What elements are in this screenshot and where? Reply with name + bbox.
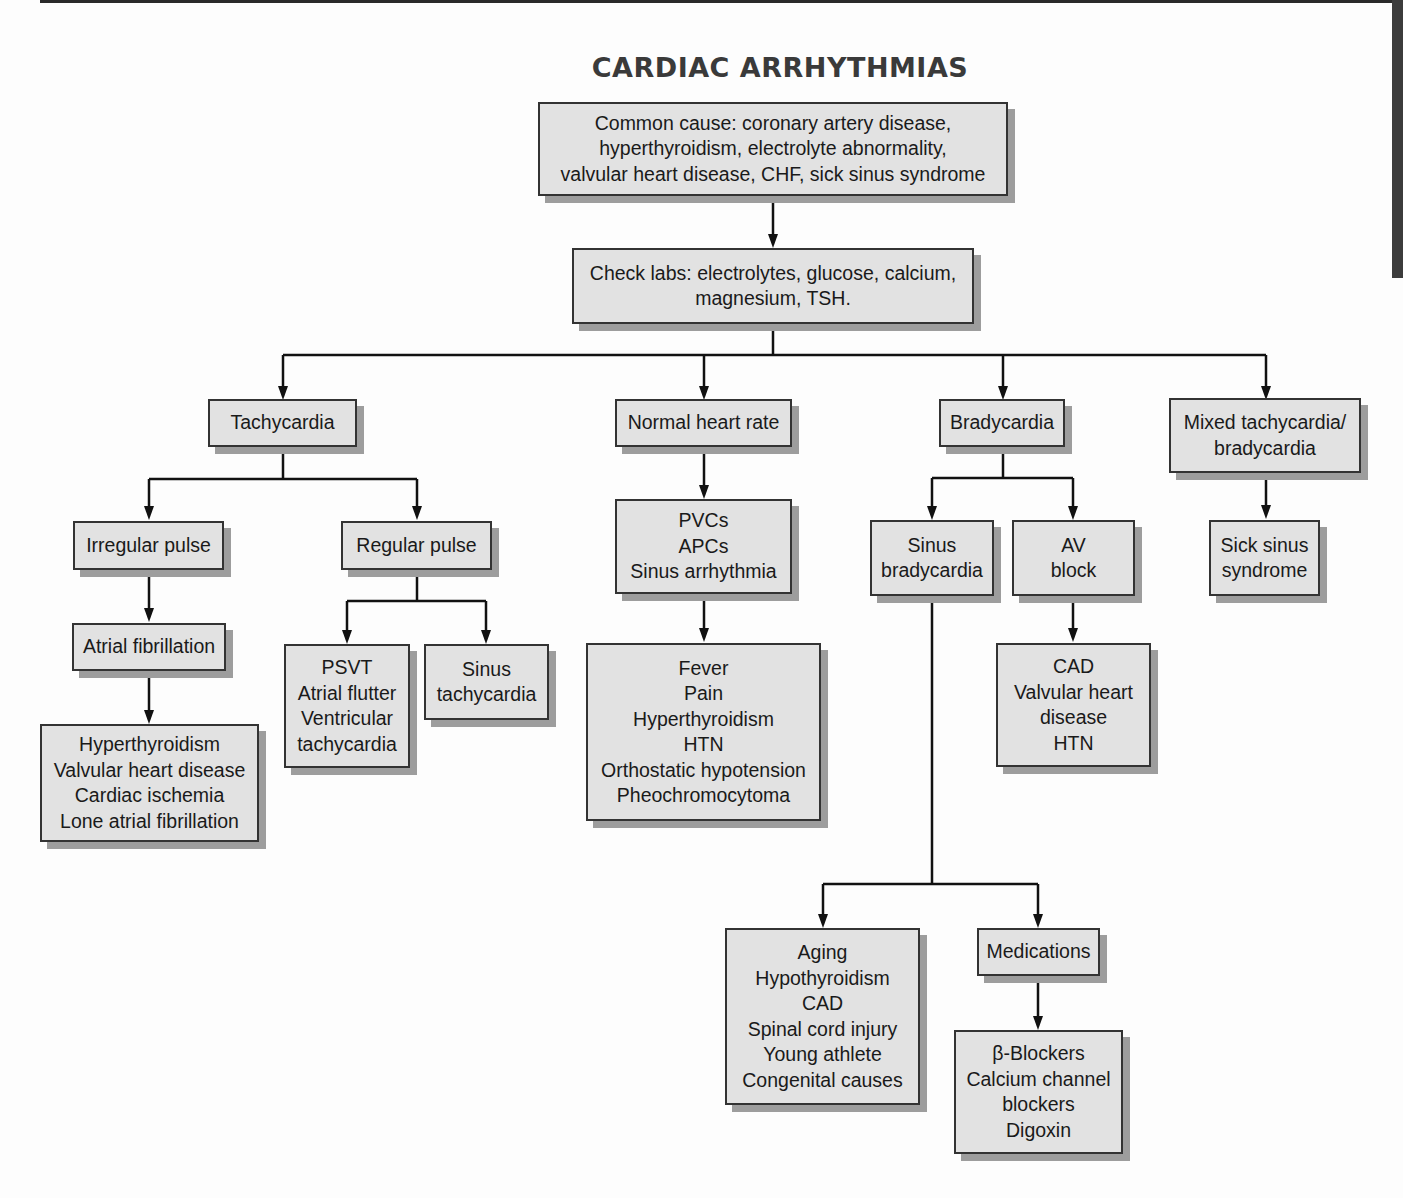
- node-tachycardia: Tachycardia: [208, 399, 357, 447]
- node-text: Sick sinus: [1221, 533, 1309, 559]
- node-text: valvular heart disease, CHF, sick sinus …: [561, 162, 986, 188]
- node-text: CAD: [1053, 654, 1094, 680]
- node-psvt-group: PSVTAtrial flutterVentriculartachycardia: [284, 644, 410, 768]
- node-text: Tachycardia: [230, 410, 334, 436]
- node-av-block: AVblock: [1012, 520, 1135, 596]
- node-text: Check labs: electrolytes, glucose, calci…: [590, 261, 956, 287]
- node-text: Fever: [679, 656, 729, 682]
- node-medication-list: β-BlockersCalcium channelblockersDigoxin: [954, 1030, 1123, 1154]
- node-text: Congenital causes: [742, 1068, 902, 1094]
- node-text: bradycardia: [1214, 436, 1316, 462]
- node-text: PSVT: [322, 655, 373, 681]
- node-text: Irregular pulse: [86, 533, 211, 559]
- node-text: β-Blockers: [992, 1041, 1084, 1067]
- node-sick-sinus: Sick sinussyndrome: [1209, 520, 1320, 596]
- node-text: magnesium, TSH.: [695, 286, 851, 312]
- node-text: Normal heart rate: [628, 410, 780, 436]
- node-text: block: [1051, 558, 1097, 584]
- node-text: Orthostatic hypotension: [601, 758, 806, 784]
- node-text: Medications: [986, 939, 1090, 965]
- node-text: Aging: [798, 940, 848, 966]
- node-text: Sinus arrhythmia: [630, 559, 776, 585]
- node-text: Spinal cord injury: [748, 1017, 898, 1043]
- node-mixed: Mixed tachycardia/bradycardia: [1169, 398, 1361, 473]
- node-text: Atrial flutter: [298, 681, 397, 707]
- side-tab-marker: [1392, 0, 1403, 278]
- node-text: Bradycardia: [950, 410, 1054, 436]
- node-text: Young athlete: [763, 1042, 882, 1068]
- node-sinus-bradycardia: Sinusbradycardia: [870, 520, 994, 596]
- node-normal-types: PVCsAPCsSinus arrhythmia: [615, 499, 792, 594]
- node-av-block-causes: CADValvular heartdiseaseHTN: [996, 643, 1151, 767]
- node-sinus-tachycardia: Sinustachycardia: [424, 644, 549, 720]
- node-text: Digoxin: [1006, 1118, 1071, 1144]
- node-text: Hyperthyroidism: [633, 707, 774, 733]
- node-text: Regular pulse: [356, 533, 476, 559]
- node-text: CAD: [802, 991, 843, 1017]
- node-text: Atrial fibrillation: [83, 634, 215, 660]
- node-text: Mixed tachycardia/: [1184, 410, 1347, 436]
- node-text: Sinus: [908, 533, 957, 559]
- node-irregular-pulse: Irregular pulse: [73, 521, 224, 570]
- node-text: HTN: [683, 732, 723, 758]
- node-text: APCs: [679, 534, 729, 560]
- node-text: blockers: [1002, 1092, 1075, 1118]
- node-text: Valvular heart: [1014, 680, 1133, 706]
- node-text: Hypothyroidism: [755, 966, 889, 992]
- node-text: Pain: [684, 681, 723, 707]
- node-text: Ventricular: [301, 706, 393, 732]
- node-text: tachycardia: [437, 682, 537, 708]
- node-text: AV: [1061, 533, 1086, 559]
- node-text: Pheochromocytoma: [617, 783, 790, 809]
- node-text: Sinus: [462, 657, 511, 683]
- node-text: Common cause: coronary artery disease,: [595, 111, 952, 137]
- diagram-title: CARDIAC ARRHYTHMIAS: [520, 52, 1040, 83]
- node-bradycardia: Bradycardia: [939, 399, 1065, 447]
- node-text: bradycardia: [881, 558, 983, 584]
- top-rule: [40, 0, 1392, 3]
- node-check-labs: Check labs: electrolytes, glucose, calci…: [572, 248, 974, 324]
- node-text: PVCs: [679, 508, 729, 534]
- node-text: Hyperthyroidism: [79, 732, 220, 758]
- node-normal-heart-rate: Normal heart rate: [615, 399, 792, 447]
- node-afib-causes: HyperthyroidismValvular heart diseaseCar…: [40, 724, 259, 842]
- node-medications: Medications: [977, 928, 1100, 976]
- node-text: Cardiac ischemia: [75, 783, 225, 809]
- node-common-cause: Common cause: coronary artery disease,hy…: [538, 102, 1008, 196]
- node-text: Lone atrial fibrillation: [60, 809, 239, 835]
- node-text: syndrome: [1222, 558, 1308, 584]
- node-text: Valvular heart disease: [54, 758, 246, 784]
- node-text: tachycardia: [297, 732, 397, 758]
- node-text: disease: [1040, 705, 1107, 731]
- node-sinus-brady-causes: AgingHypothyroidismCADSpinal cord injury…: [725, 928, 920, 1105]
- node-atrial-fibrillation: Atrial fibrillation: [72, 623, 226, 671]
- node-regular-pulse: Regular pulse: [341, 521, 492, 570]
- node-text: hyperthyroidism, electrolyte abnormality…: [599, 136, 947, 162]
- node-text: HTN: [1053, 731, 1093, 757]
- node-text: Calcium channel: [966, 1067, 1110, 1093]
- node-normal-causes: FeverPainHyperthyroidismHTNOrthostatic h…: [586, 643, 821, 821]
